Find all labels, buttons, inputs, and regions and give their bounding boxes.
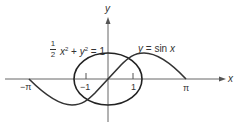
x-axis-label: x bbox=[228, 74, 233, 84]
ellipse-plus: + bbox=[68, 46, 79, 57]
sine-equation: y = sin x bbox=[138, 44, 175, 54]
math-diagram: y x −π −1 1 π 1 2 x2 + y2 = 1 y = sin x bbox=[0, 0, 238, 131]
fraction-denominator: 2 bbox=[51, 51, 55, 59]
tick-label-one: 1 bbox=[131, 83, 136, 92]
tick-label-neg-one: −1 bbox=[80, 83, 90, 92]
x-axis-arrow-icon bbox=[219, 77, 226, 82]
sine-rhs: = sin bbox=[143, 43, 170, 54]
y-axis-arrow-icon bbox=[106, 17, 111, 24]
plot-canvas bbox=[0, 0, 238, 131]
ellipse-rhs: = 1 bbox=[88, 46, 105, 57]
ellipse-equation-fraction: 1 2 bbox=[50, 40, 56, 59]
sine-var: x bbox=[170, 43, 175, 54]
y-axis-label: y bbox=[105, 4, 110, 14]
fraction-numerator: 1 bbox=[51, 40, 55, 48]
tick-label-neg-pi: −π bbox=[20, 83, 31, 92]
tick-label-pi: π bbox=[183, 84, 189, 93]
ellipse-equation: x2 + y2 = 1 bbox=[60, 46, 105, 57]
